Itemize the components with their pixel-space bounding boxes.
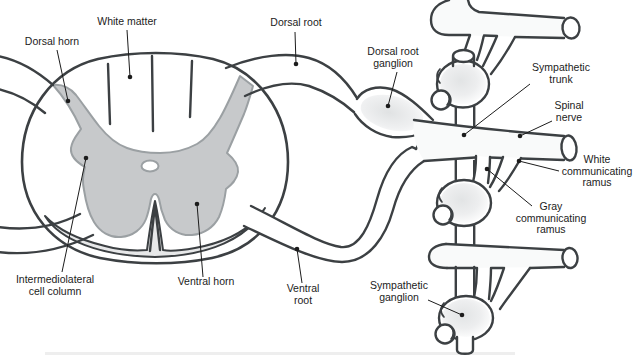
spinal-nerve-shape — [413, 120, 577, 161]
leader-dot-dorsal-root — [294, 62, 299, 67]
label-dorsal-horn: Dorsal horn — [25, 35, 79, 47]
leader-dot-sympathetic-ganglion — [460, 313, 465, 318]
diagram-canvas: Dorsal hornWhite matterDorsal rootDorsal… — [0, 0, 639, 360]
leader-dot-intermediolateral-cell-column — [84, 156, 89, 161]
leader-dot-ventral-horn — [195, 202, 200, 207]
leader-dot-gray-communicating-ramus — [485, 167, 490, 172]
leader-dot-ventral-root — [295, 247, 300, 252]
leader-dot-dorsal-horn — [66, 99, 71, 104]
spinal-cord-cross-section — [22, 53, 288, 263]
trunk-cut-end-top — [453, 50, 474, 62]
ventral-root-right — [244, 147, 424, 262]
label-dorsal-root: Dorsal root — [270, 16, 321, 28]
leader-line-intermediolateral-cell-column — [62, 158, 86, 272]
label-sympathetic-ganglion: Sympatheticganglion — [370, 279, 428, 303]
leader-dot-dorsal-root-ganglion — [386, 104, 391, 109]
dorsal-sulci — [108, 56, 192, 131]
leader-dot-white-matter — [128, 75, 133, 80]
leader-line-ventral-root — [297, 249, 302, 283]
label-spinal-nerve: Spinalnerve — [554, 99, 583, 123]
lower-spinal-nerve-level — [429, 244, 579, 269]
label-sympathetic-trunk: Sympathetictrunk — [532, 61, 590, 85]
label-ventral-root: Ventralroot — [287, 282, 320, 306]
left-dorsal-root — [0, 56, 53, 113]
label-ventral-horn: Ventral horn — [178, 275, 235, 287]
leader-line-white-communicating-ramus — [519, 161, 559, 171]
leader-dot-spinal-nerve — [518, 134, 523, 139]
label-white-matter: White matter — [97, 15, 157, 27]
label-intermediolateral-cell-column: Intermediolateralcell column — [16, 273, 94, 297]
label-dorsal-root-ganglion: Dorsal rootganglion — [367, 45, 418, 69]
leader-dot-sympathetic-trunk — [462, 133, 467, 138]
central-canal — [142, 161, 159, 172]
spinal-cord-sympathetic-trunk-diagram: Dorsal hornWhite matterDorsal rootDorsal… — [0, 0, 639, 360]
sympathetic-ganglion-top — [432, 50, 490, 110]
leader-dot-white-communicating-ramus — [517, 159, 522, 164]
leader-line-dorsal-root — [295, 32, 296, 64]
sympathetic-ganglion-bottom — [436, 296, 494, 355]
scan-artifact-band — [45, 352, 515, 355]
label-gray-communicating-ramus: Graycommunicatingramus — [516, 200, 587, 235]
sympathetic-ganglion-middle — [434, 180, 492, 226]
nerve-cut-end — [561, 247, 578, 268]
